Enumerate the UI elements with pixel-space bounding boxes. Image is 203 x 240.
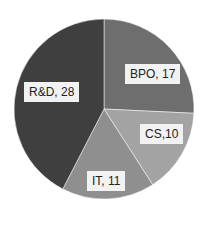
label-bpo: BPO, 17 [125, 64, 180, 84]
label-it: IT, 11 [87, 171, 125, 191]
label-cs: CS,10 [140, 124, 183, 144]
label-rd: R&D, 28 [24, 82, 79, 102]
